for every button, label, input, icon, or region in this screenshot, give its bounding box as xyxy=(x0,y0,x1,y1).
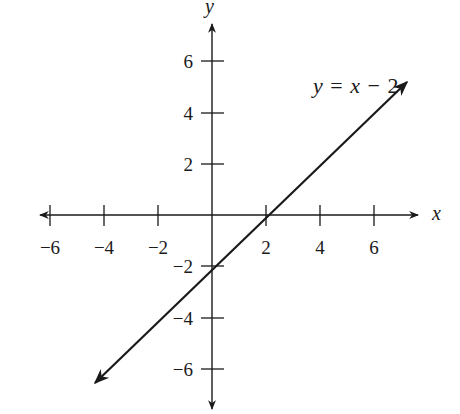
y-tick-label: −2 xyxy=(173,256,193,277)
x-tick-label: 6 xyxy=(369,237,379,258)
x-tick-label: 4 xyxy=(315,237,325,258)
y-tick-label: −4 xyxy=(173,308,194,329)
equation-label: y = x − 2 xyxy=(311,73,398,98)
x-tick-label: −6 xyxy=(40,237,60,258)
line-y-equals-x-minus-2 xyxy=(95,82,407,383)
coordinate-plane: −6 −4 −2 2 4 6 6 4 2 −2 −4 −6 x y y = x … xyxy=(0,0,460,414)
x-tick-label: −4 xyxy=(94,237,115,258)
y-tick-label: 2 xyxy=(184,154,194,175)
x-axis-label: x xyxy=(431,202,441,224)
y-tick-label: 4 xyxy=(184,103,194,124)
x-tick-label: −2 xyxy=(148,237,168,258)
y-tick-label: −6 xyxy=(173,359,193,380)
y-tick-label: 6 xyxy=(184,51,194,72)
x-tick-label: 2 xyxy=(261,237,271,258)
y-axis-label: y xyxy=(203,0,214,18)
